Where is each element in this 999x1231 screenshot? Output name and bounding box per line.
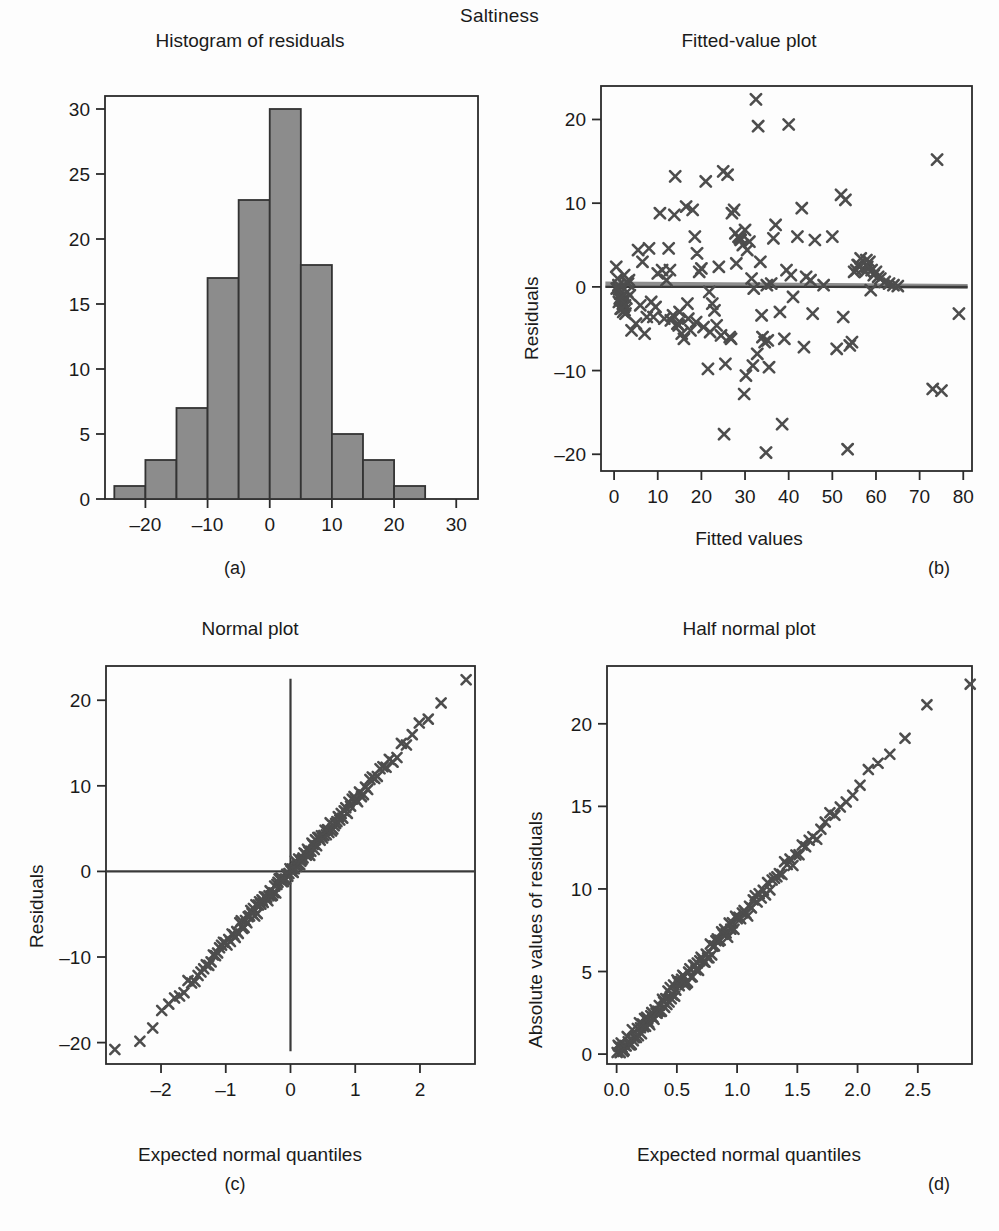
svg-text:30: 30	[69, 99, 90, 120]
svg-text:–20: –20	[59, 1033, 91, 1054]
svg-text:15: 15	[69, 294, 90, 315]
svg-text:–1: –1	[215, 1079, 236, 1100]
svg-text:10: 10	[565, 193, 586, 214]
panel-a: Histogram of residuals –20–1001020300510…	[0, 30, 500, 590]
panel-c-caption: (c)	[175, 1174, 295, 1195]
panel-a-caption: (a)	[175, 558, 295, 579]
svg-text:–20: –20	[130, 514, 162, 535]
svg-text:30: 30	[446, 514, 467, 535]
svg-text:70: 70	[909, 486, 930, 507]
panel-c-xlabel: Expected normal quantiles	[0, 1144, 500, 1166]
svg-text:1.5: 1.5	[784, 1079, 810, 1100]
svg-text:20: 20	[69, 229, 90, 250]
panel-b-caption: (b)	[879, 558, 999, 579]
figure-root: Saltiness Histogram of residuals –20–100…	[0, 0, 999, 1231]
svg-text:0: 0	[609, 486, 620, 507]
panel-b-ylabel: Residuals	[521, 277, 543, 360]
svg-text:20: 20	[571, 714, 592, 735]
svg-text:5: 5	[79, 424, 90, 445]
svg-text:0: 0	[79, 489, 90, 510]
svg-text:20: 20	[691, 486, 712, 507]
svg-text:–2: –2	[150, 1079, 171, 1100]
panel-b-plot: 01020304050607080–20–1001020	[499, 48, 999, 538]
svg-text:20: 20	[384, 514, 405, 535]
svg-text:0: 0	[285, 1079, 296, 1100]
svg-text:10: 10	[571, 879, 592, 900]
svg-text:0: 0	[575, 277, 586, 298]
panel-c: Normal plot –2–1012–20–1001020 Expected …	[0, 618, 500, 1231]
svg-text:0.0: 0.0	[603, 1079, 629, 1100]
panel-d: Half normal plot 0.00.51.01.52.02.505101…	[499, 618, 999, 1231]
panel-a-plot: –20–100102030051015202530	[0, 48, 500, 568]
svg-text:0: 0	[264, 514, 275, 535]
svg-text:10: 10	[647, 486, 668, 507]
svg-text:10: 10	[321, 514, 342, 535]
panel-d-plot: 0.00.51.01.52.02.505101520	[499, 636, 999, 1128]
panel-d-ylabel: Absolute values of residuals	[525, 811, 547, 1048]
figure-suptitle: Saltiness	[0, 5, 999, 27]
svg-text:–10: –10	[59, 947, 91, 968]
svg-text:10: 10	[69, 359, 90, 380]
svg-text:–20: –20	[554, 444, 586, 465]
svg-text:60: 60	[865, 486, 886, 507]
svg-text:–10: –10	[192, 514, 224, 535]
svg-text:2: 2	[415, 1079, 426, 1100]
svg-text:40: 40	[778, 486, 799, 507]
svg-text:25: 25	[69, 164, 90, 185]
panel-c-plot: –2–1012–20–1001020	[0, 636, 500, 1128]
panel-b-xlabel: Fitted values	[499, 528, 999, 550]
svg-text:20: 20	[565, 109, 586, 130]
svg-text:0: 0	[581, 1044, 592, 1065]
svg-text:80: 80	[953, 486, 974, 507]
svg-text:0.5: 0.5	[664, 1079, 690, 1100]
svg-text:15: 15	[571, 796, 592, 817]
svg-text:1.0: 1.0	[724, 1079, 750, 1100]
panel-b: Fitted-value plot 01020304050607080–20–1…	[499, 30, 999, 590]
svg-text:30: 30	[734, 486, 755, 507]
svg-text:50: 50	[822, 486, 843, 507]
svg-text:2.0: 2.0	[844, 1079, 870, 1100]
svg-text:20: 20	[70, 690, 91, 711]
svg-text:2.5: 2.5	[905, 1079, 931, 1100]
panel-c-ylabel: Residuals	[26, 865, 48, 948]
svg-text:–10: –10	[554, 361, 586, 382]
svg-text:0: 0	[80, 861, 91, 882]
svg-text:5: 5	[581, 962, 592, 983]
panel-d-xlabel: Expected normal quantiles	[499, 1144, 999, 1166]
panel-d-caption: (d)	[879, 1174, 999, 1195]
svg-text:1: 1	[350, 1079, 361, 1100]
svg-text:10: 10	[70, 776, 91, 797]
